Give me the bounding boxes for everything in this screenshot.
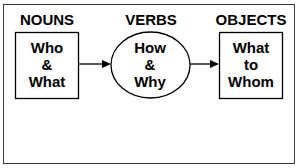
nouns-line-2: & (12, 56, 82, 73)
verbs-content: How & Why (115, 39, 185, 90)
objects-line-2: to (216, 56, 286, 73)
verbs-line-1: How (115, 39, 185, 56)
objects-line-3: Whom (216, 73, 286, 90)
verbs-line-2: & (115, 56, 185, 73)
objects-line-1: What (216, 39, 286, 56)
nouns-content: Who & What (12, 39, 82, 90)
nouns-line-1: Who (12, 39, 82, 56)
verbs-line-3: Why (115, 73, 185, 90)
objects-content: What to Whom (216, 39, 286, 90)
arrowhead-icon (102, 60, 111, 68)
nouns-line-3: What (12, 73, 82, 90)
